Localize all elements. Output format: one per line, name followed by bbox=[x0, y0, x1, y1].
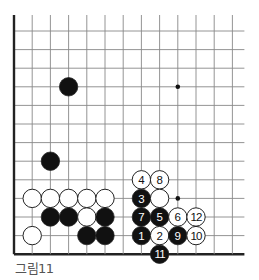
black-stone bbox=[96, 226, 114, 244]
black-stone-move-9: 9 bbox=[169, 226, 187, 244]
black-stone bbox=[41, 152, 59, 170]
white-stone-icon bbox=[78, 208, 96, 226]
move-number-label: 3 bbox=[138, 193, 144, 205]
white-stone-move-4: 4 bbox=[132, 171, 150, 189]
white-stone bbox=[78, 189, 96, 207]
black-stone-icon bbox=[59, 208, 77, 226]
star-point-icon bbox=[176, 85, 181, 90]
move-number-label: 7 bbox=[138, 211, 144, 223]
black-stone-icon bbox=[41, 208, 59, 226]
white-stone-move-2: 2 bbox=[150, 226, 168, 244]
move-number-label: 5 bbox=[156, 211, 162, 223]
white-stone-icon bbox=[96, 189, 114, 207]
white-stone bbox=[41, 189, 59, 207]
black-stone bbox=[59, 208, 77, 226]
white-stone-icon bbox=[41, 189, 59, 207]
white-stone bbox=[150, 189, 168, 207]
move-number-label: 4 bbox=[138, 174, 145, 186]
black-stone bbox=[41, 208, 59, 226]
white-stone-icon bbox=[59, 189, 77, 207]
move-number-label: 1 bbox=[138, 230, 144, 242]
black-stone-icon bbox=[41, 152, 59, 170]
move-number-label: 12 bbox=[190, 211, 202, 223]
move-number-label: 10 bbox=[190, 230, 202, 242]
white-stone-icon bbox=[23, 226, 41, 244]
black-stone-move-7: 7 bbox=[132, 208, 150, 226]
black-stone-icon bbox=[96, 208, 114, 226]
figure-caption: 그림11 bbox=[15, 258, 54, 277]
white-stone-icon bbox=[78, 189, 96, 207]
white-stone bbox=[59, 189, 77, 207]
black-stone bbox=[78, 226, 96, 244]
white-stone-icon bbox=[150, 189, 168, 207]
move-number-label: 11 bbox=[154, 248, 165, 260]
black-stone-move-5: 5 bbox=[150, 208, 168, 226]
white-stone bbox=[78, 208, 96, 226]
black-stone-move-3: 3 bbox=[132, 189, 150, 207]
black-stone-move-11: 11 bbox=[150, 245, 168, 263]
black-stone bbox=[96, 208, 114, 226]
black-stone-icon bbox=[96, 226, 114, 244]
star-point-icon bbox=[176, 196, 181, 201]
move-number-label: 2 bbox=[156, 230, 162, 242]
white-stone bbox=[96, 189, 114, 207]
white-stone-move-12: 12 bbox=[187, 208, 205, 226]
black-stone-move-1: 1 bbox=[132, 226, 150, 244]
white-stone-move-10: 10 bbox=[187, 226, 205, 244]
white-stone-move-8: 8 bbox=[150, 171, 168, 189]
white-stone-move-6: 6 bbox=[169, 208, 187, 226]
white-stone-icon bbox=[23, 189, 41, 207]
move-number-label: 8 bbox=[156, 174, 162, 186]
move-number-label: 6 bbox=[175, 211, 181, 223]
black-stone-icon bbox=[59, 78, 77, 96]
black-stone-icon bbox=[78, 226, 96, 244]
move-number-label: 9 bbox=[175, 230, 181, 242]
white-stone bbox=[23, 226, 41, 244]
black-stone bbox=[59, 78, 77, 96]
white-stone bbox=[23, 189, 41, 207]
go-board-diagram: 483756121291011 bbox=[0, 0, 259, 280]
